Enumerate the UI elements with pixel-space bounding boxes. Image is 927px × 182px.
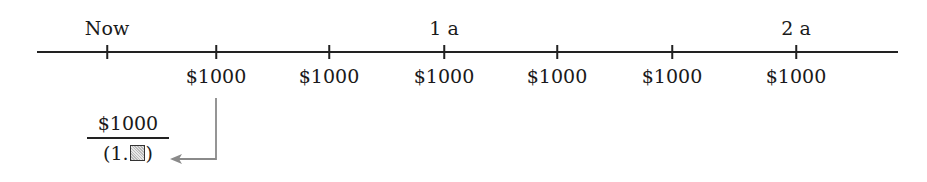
fraction-bar [87, 137, 169, 139]
denominator-suffix: ) [146, 142, 153, 164]
shaded-box-icon [130, 145, 145, 161]
denominator-prefix: (1. [103, 142, 129, 164]
present-value-fraction: $1000 (1.) [87, 112, 169, 164]
fraction-numerator: $1000 [87, 112, 169, 134]
fraction-denominator: (1.) [87, 142, 169, 164]
